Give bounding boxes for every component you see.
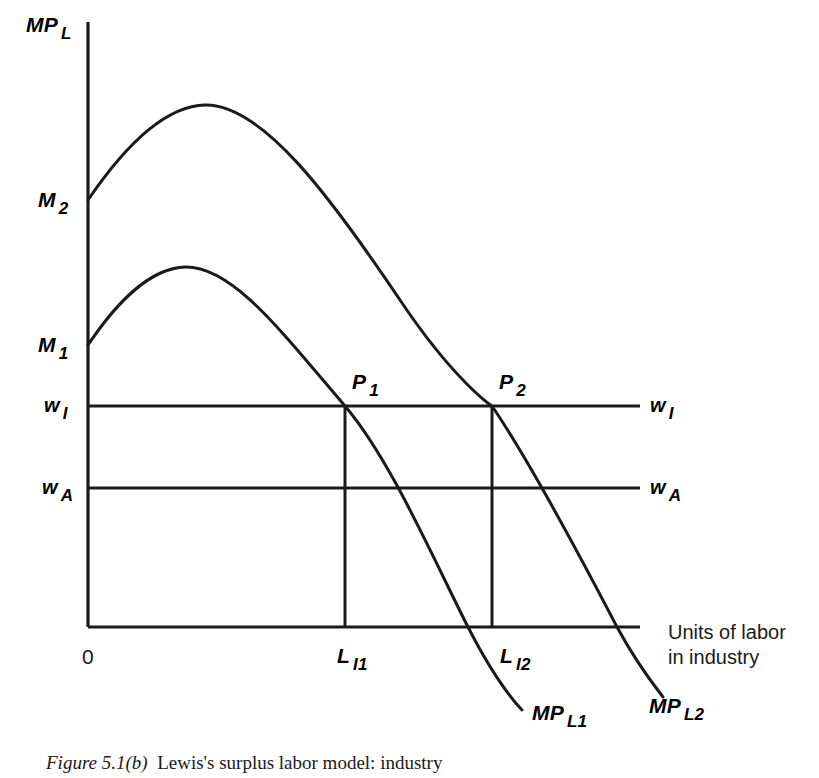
intercept-m2-base: M [38,188,56,211]
curve-mp-l1-sub: L1 [567,712,587,731]
curve-mp-l1-base: MP [532,701,564,724]
labor-label-li2: LI2 [500,645,528,666]
x-axis-label-line2: in industry [668,646,759,669]
labor-li1-base: L [337,644,350,667]
wage-agricultural-right-base: w [650,476,666,498]
wage-label-industrial-right: wI [650,394,671,415]
wage-industrial-right-base: w [650,394,666,416]
point-p1-sub: 1 [369,381,379,400]
mp-l2-curve [88,105,663,697]
intercept-label-m1: M1 [38,334,65,355]
y-axis-label-base: MP [26,13,58,36]
wage-agricultural-right-sub: A [669,486,681,505]
wage-label-agricultural-right: wA [650,476,678,497]
figure-caption: Figure 5.1(b) Lewis's surplus labor mode… [46,752,442,774]
point-label-p2: P2 [499,371,523,392]
point-label-p1: P1 [352,371,376,392]
intercept-label-m2: M2 [38,189,65,210]
intercept-m1-sub: 1 [59,344,69,363]
y-axis-label: MPL [26,14,69,35]
curve-mp-l2-sub: L2 [684,705,704,724]
curve-label-mp-l2: MPL2 [649,695,701,716]
figure-container: MPL M2 M1 wI wA wI wA P1 P2 LI1 LI2 MPL1 [0,0,819,778]
wage-industrial-right-sub: I [669,404,674,423]
wage-agricultural-left-sub: A [61,486,73,505]
point-p2-sub: 2 [516,381,526,400]
point-p2-base: P [499,370,513,393]
intercept-m2-sub: 2 [59,199,69,218]
wage-industrial-left-base: w [44,394,60,416]
figure-caption-number: Figure 5.1(b) [46,752,148,773]
labor-li2-sub: I2 [516,655,531,674]
intercept-m1-base: M [38,333,56,356]
point-p1-base: P [352,370,366,393]
curve-label-mp-l1: MPL1 [532,702,584,723]
origin-label: 0 [82,645,94,669]
y-axis-label-sub: L [61,24,72,43]
labor-li2-base: L [500,644,513,667]
labor-li1-sub: I1 [353,655,368,674]
wage-label-agricultural-left: wA [42,476,70,497]
figure-caption-text: Lewis's surplus labor model: industry [157,752,442,773]
labor-label-li1: LI1 [337,645,365,666]
curve-mp-l2-base: MP [649,694,681,717]
wage-label-industrial-left: wI [44,394,65,415]
wage-agricultural-left-base: w [42,476,58,498]
wage-industrial-left-sub: I [63,404,68,423]
x-axis-label-line1: Units of labor [668,621,786,644]
